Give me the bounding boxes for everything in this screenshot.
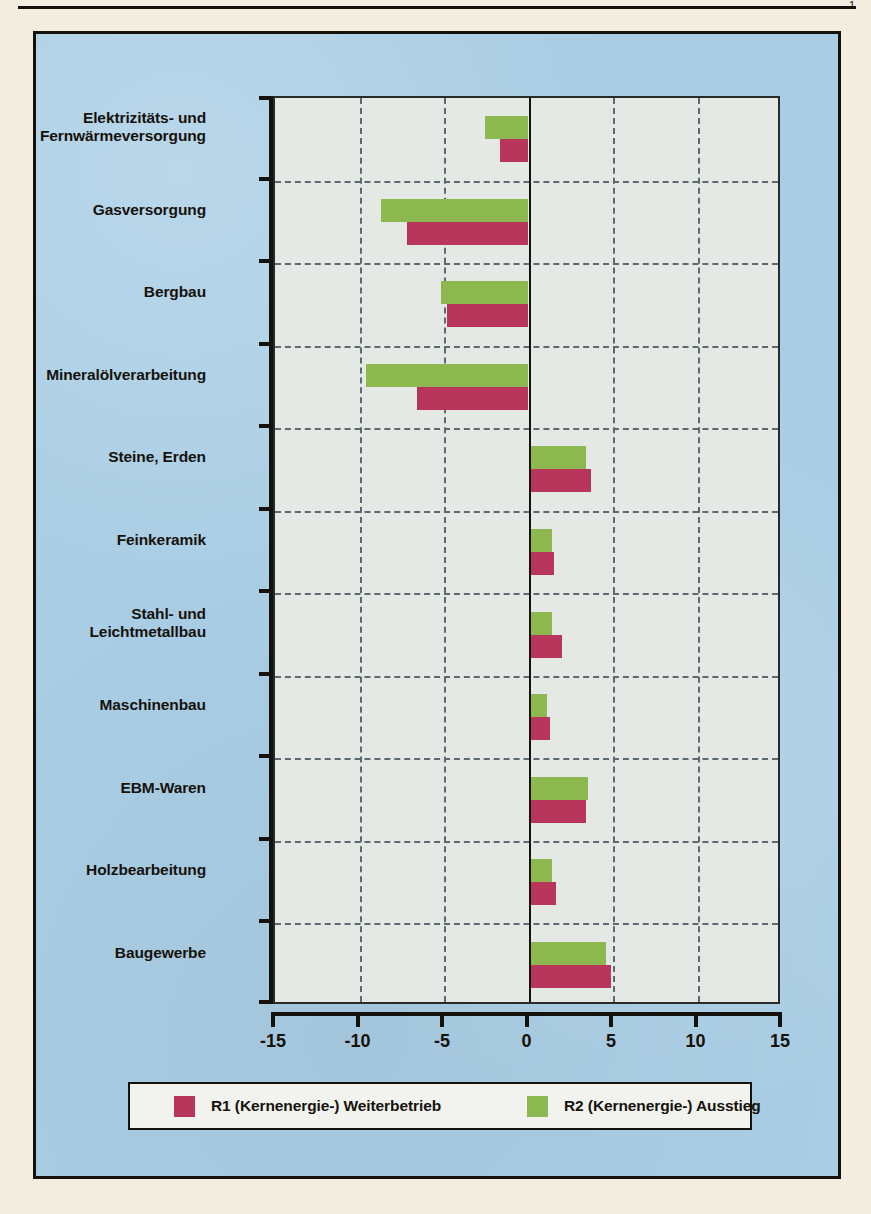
x-axis-tick-label: -15 xyxy=(260,1031,286,1052)
x-axis-tick xyxy=(271,1012,275,1027)
y-axis-tick xyxy=(259,424,273,428)
category-label: Stahl- undLeichtmetallbau xyxy=(0,605,206,641)
category-label-line: Steine, Erden xyxy=(0,448,206,466)
y-axis-spine xyxy=(269,96,273,1004)
legend-swatch-r1 xyxy=(174,1096,195,1117)
legend-swatch-r2 xyxy=(527,1096,548,1117)
x-axis-tick xyxy=(525,1012,529,1027)
y-axis-tick xyxy=(259,754,273,758)
legend-label-r1: R1 (Kernenergie-) Weiterbetrieb xyxy=(211,1097,441,1115)
chart-legend: R1 (Kernenergie-) Weiterbetrieb R2 (Kern… xyxy=(128,1082,752,1130)
category-label: Bergbau xyxy=(0,283,206,301)
bar-r2 xyxy=(529,612,553,635)
bar-r1 xyxy=(529,552,554,575)
gridline-horizontal xyxy=(275,263,778,265)
category-label: Elektrizitäts- undFernwärmeversorgung xyxy=(0,109,206,145)
bar-r1 xyxy=(529,800,586,823)
bar-r2 xyxy=(529,446,586,469)
gridline-horizontal xyxy=(275,676,778,678)
gridline-vertical xyxy=(613,98,615,1002)
gridline-horizontal xyxy=(275,758,778,760)
category-label-line: Mineralölverarbeitung xyxy=(0,366,206,384)
x-axis-tick xyxy=(440,1012,444,1027)
legend-label-r2: R2 (Kernenergie-) Ausstieg xyxy=(564,1097,761,1115)
page-top-rule xyxy=(18,6,856,9)
bar-r2 xyxy=(529,942,607,965)
bar-r1 xyxy=(417,387,529,410)
category-label-line: Maschinenbau xyxy=(0,696,206,714)
legend-entry-r1: R1 (Kernenergie-) Weiterbetrieb xyxy=(174,1084,441,1128)
category-label: Feinkeramik xyxy=(0,531,206,549)
y-axis-tick xyxy=(259,589,273,593)
y-axis-tick xyxy=(259,507,273,511)
bar-r2 xyxy=(529,529,553,552)
bar-r2 xyxy=(441,281,529,304)
page-corner-mark: 1 xyxy=(849,0,863,10)
bar-r1 xyxy=(447,304,528,327)
category-label-line: Stahl- und xyxy=(0,605,206,623)
y-axis-tick xyxy=(259,342,273,346)
category-label-line: Bergbau xyxy=(0,283,206,301)
legend-entry-r2: R2 (Kernenergie-) Ausstieg xyxy=(527,1084,761,1128)
figure-panel: R1 (Kernenergie-) Weiterbetrieb R2 (Kern… xyxy=(33,31,841,1179)
gridline-horizontal xyxy=(275,593,778,595)
category-label: Mineralölverarbeitung xyxy=(0,366,206,384)
category-label: Baugewerbe xyxy=(0,944,206,962)
y-axis-tick xyxy=(259,177,273,181)
bar-r1 xyxy=(529,635,563,658)
gridline-horizontal xyxy=(275,346,778,348)
category-label-line: Feinkeramik xyxy=(0,531,206,549)
category-label-line: Gasversorgung xyxy=(0,201,206,219)
category-label: Gasversorgung xyxy=(0,201,206,219)
y-axis-tick xyxy=(259,259,273,263)
chart-plot-area xyxy=(273,96,780,1004)
bar-r2 xyxy=(529,694,548,717)
y-axis-bracket xyxy=(259,96,273,1004)
x-axis-bracket xyxy=(273,1012,780,1028)
zero-line xyxy=(529,98,531,1002)
category-label: Holzbearbeitung xyxy=(0,861,206,879)
bar-r2 xyxy=(529,859,553,882)
gridline-horizontal xyxy=(275,923,778,925)
bar-r1 xyxy=(500,139,529,162)
x-axis-tick xyxy=(778,1012,782,1027)
category-label-line: EBM-Waren xyxy=(0,779,206,797)
category-label-line: Holzbearbeitung xyxy=(0,861,206,879)
x-axis-tick xyxy=(356,1012,360,1027)
bar-r1 xyxy=(529,965,612,988)
bar-r2 xyxy=(381,199,528,222)
bar-r2 xyxy=(529,777,588,800)
x-axis-tick-label: 15 xyxy=(770,1031,790,1052)
y-axis-tick xyxy=(259,837,273,841)
category-label-line: Fernwärmeversorgung xyxy=(0,127,206,145)
y-axis-tick xyxy=(259,672,273,676)
bar-r1 xyxy=(529,717,551,740)
gridline-vertical xyxy=(360,98,362,1002)
x-axis-tick-label: -5 xyxy=(434,1031,450,1052)
gridline-vertical xyxy=(698,98,700,1002)
x-axis-tick-label: 10 xyxy=(685,1031,705,1052)
bar-r2 xyxy=(366,364,528,387)
category-label: Steine, Erden xyxy=(0,448,206,466)
bar-r1 xyxy=(529,882,556,905)
category-label: Maschinenbau xyxy=(0,696,206,714)
x-axis-tick-label: -10 xyxy=(344,1031,370,1052)
category-label-line: Elektrizitäts- und xyxy=(0,109,206,127)
gridline-horizontal xyxy=(275,181,778,183)
x-axis-tick xyxy=(694,1012,698,1027)
category-label-line: Baugewerbe xyxy=(0,944,206,962)
category-label: EBM-Waren xyxy=(0,779,206,797)
bar-r1 xyxy=(529,469,592,492)
x-axis-tick-label: 5 xyxy=(606,1031,616,1052)
y-axis-tick xyxy=(259,919,273,923)
x-axis-tick-label: 0 xyxy=(521,1031,531,1052)
bar-r1 xyxy=(407,222,529,245)
x-axis-tick xyxy=(609,1012,613,1027)
gridline-horizontal xyxy=(275,511,778,513)
gridline-horizontal xyxy=(275,428,778,430)
category-label-line: Leichtmetallbau xyxy=(0,623,206,641)
bar-r2 xyxy=(485,116,529,139)
gridline-horizontal xyxy=(275,841,778,843)
